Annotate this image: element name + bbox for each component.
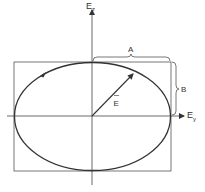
field-vector	[92, 74, 133, 116]
brace-b	[172, 62, 179, 115]
polarization-diagram: Ez Ey A B E	[0, 0, 205, 192]
polarization-ellipse	[15, 63, 171, 171]
vector-label: E	[114, 99, 119, 108]
horizontal-axis-label: Ey	[187, 110, 196, 122]
vertical-axis-label: Ez	[86, 1, 95, 12]
dimension-label-a: A	[128, 45, 134, 54]
dimension-label-b: B	[181, 85, 186, 94]
brace-a	[93, 54, 170, 61]
